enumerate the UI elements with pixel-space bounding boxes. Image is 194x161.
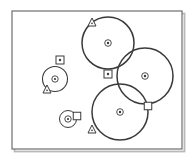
bottom-circle-center-dot xyxy=(119,111,121,113)
lower-left-node-circle-center-dot xyxy=(67,118,69,120)
right-circle-center-dot xyxy=(144,75,146,77)
left-node-circle-center-dot xyxy=(54,78,56,80)
left-triangle-marker-dot xyxy=(46,90,48,92)
free-square-marker-dot xyxy=(59,59,61,61)
top-triangle-marker-dot xyxy=(91,23,93,25)
diagram-canvas xyxy=(0,0,194,161)
top-left-circle-center-dot xyxy=(107,42,109,44)
diagram-svg xyxy=(0,0,194,161)
bottom-triangle-marker-dot xyxy=(91,130,93,132)
lower-intersection-square xyxy=(144,102,152,110)
node-adjacent-square xyxy=(73,112,81,120)
upper-intersection-square-dot xyxy=(107,73,109,75)
